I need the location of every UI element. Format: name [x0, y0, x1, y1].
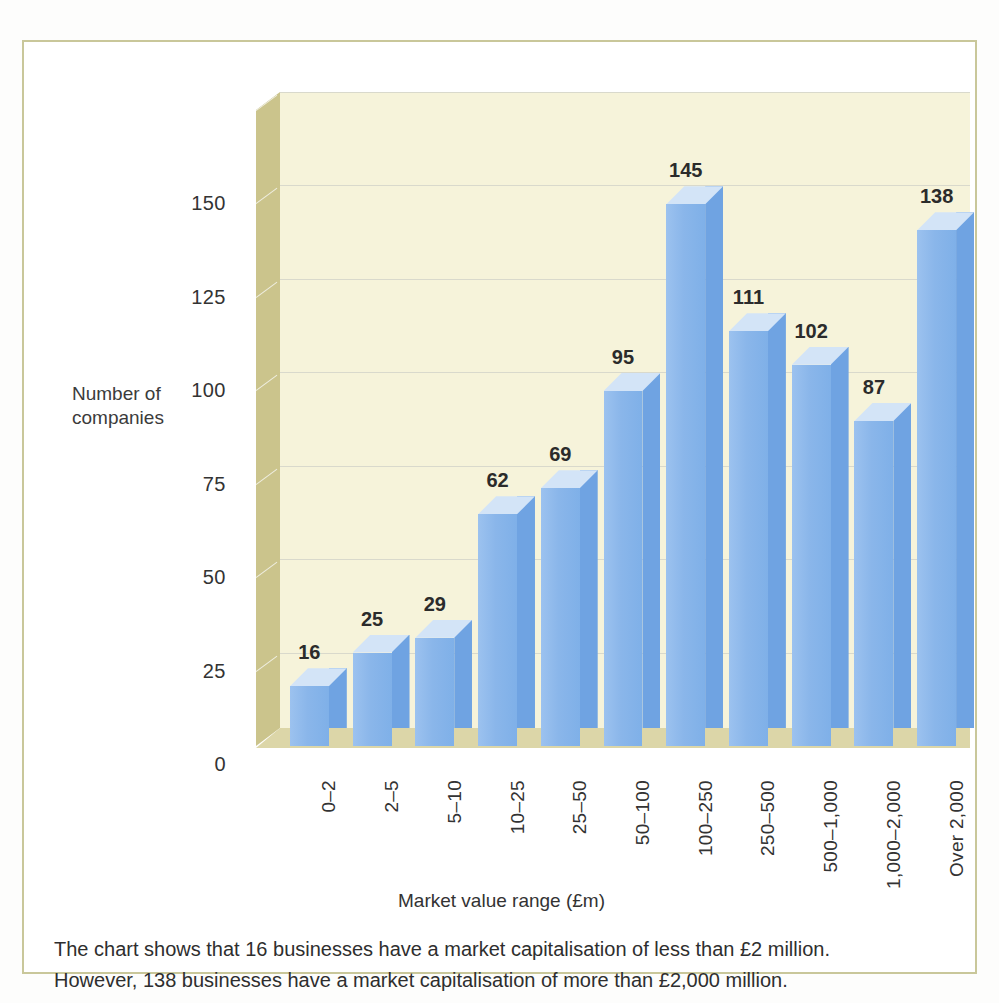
wall-gridline-tick: [256, 188, 278, 204]
x-axis-tick-label: 250–500: [757, 780, 779, 856]
y-axis-tick-label: 125: [191, 285, 226, 308]
bar: 62: [478, 514, 517, 746]
wall-gridline-tick: [256, 562, 278, 578]
bar-side-face: [705, 186, 723, 728]
x-axis-tick-label: Over 2,000: [946, 780, 968, 877]
y-axis-tick-label: 75: [203, 472, 226, 495]
y-axis-tick-label: 150: [191, 192, 226, 215]
bar-value-label: 87: [854, 376, 893, 399]
bar-side-face: [956, 212, 974, 728]
bar-front-face: [290, 686, 329, 746]
bar-front-face: [917, 230, 956, 746]
bar-side-face: [831, 347, 849, 728]
bar-value-label: 16: [290, 641, 329, 664]
bar-value-label: 62: [478, 469, 517, 492]
x-axis-tick-label: 0–2: [318, 780, 340, 813]
y-axis-tick-label: 50: [203, 566, 226, 589]
caption-line-2: However, 138 businesses have a market ca…: [54, 965, 954, 996]
bar-value-label: 29: [415, 593, 454, 616]
bar-side-face: [580, 470, 598, 728]
bar: 69: [541, 488, 580, 746]
y-axis-tick-label: 100: [191, 379, 226, 402]
bar-front-face: [666, 204, 705, 746]
bar-side-face: [893, 403, 911, 728]
bar-side-face: [517, 496, 535, 728]
bar-value-label: 95: [604, 346, 643, 369]
bar-side-face: [642, 373, 660, 728]
x-axis-tick-labels: 0–22–55–1010–2525–5050–100100–250250–500…: [234, 780, 979, 888]
bar-value-label: 138: [917, 185, 956, 208]
bar-front-face: [353, 653, 392, 746]
bar: 102: [792, 365, 831, 746]
x-axis-tick-label: 10–25: [507, 780, 529, 834]
x-axis-tick-label: 2–5: [381, 780, 403, 813]
x-axis-tick-label: 1,000–2,000: [883, 780, 905, 889]
caption-line-1: The chart shows that 16 businesses have …: [54, 934, 954, 965]
bar-side-face: [454, 620, 472, 728]
page: Number of companies 0255075100125150 162…: [0, 0, 999, 1003]
bar-front-face: [415, 638, 454, 746]
bar-side-face: [768, 313, 786, 728]
bar: 138: [917, 230, 956, 746]
bar-front-face: [729, 331, 768, 746]
plot-area: 16252962699514511110287138: [234, 60, 979, 780]
bar: 25: [353, 653, 392, 746]
bar-front-face: [478, 514, 517, 746]
bar-front-face: [604, 391, 643, 746]
y-axis-tick-label: 25: [203, 659, 226, 682]
wall-gridline-tick: [256, 655, 278, 671]
wall-gridline-tick: [256, 469, 278, 485]
bar: 111: [729, 331, 768, 746]
bar-value-label: 102: [792, 320, 831, 343]
bar-value-label: 145: [666, 159, 705, 182]
y-axis-tick-labels: 0255075100125150: [154, 42, 234, 887]
wall-gridline-tick: [256, 282, 278, 298]
bar: 16: [290, 686, 329, 746]
chart-caption: The chart shows that 16 businesses have …: [54, 934, 954, 996]
chart-figure-frame: Number of companies 0255075100125150 162…: [22, 40, 977, 974]
y-axis-tick-label: 0: [214, 753, 226, 776]
wall-gridline-tick: [256, 95, 278, 111]
bar-value-label: 25: [353, 608, 392, 631]
bar: 95: [604, 391, 643, 746]
x-axis-tick-label: 50–100: [632, 780, 654, 845]
bar-value-label: 69: [541, 443, 580, 466]
chart-left-wall: [256, 92, 280, 746]
bar-front-face: [854, 421, 893, 746]
bar-chart: Number of companies 0255075100125150 162…: [24, 42, 979, 887]
x-axis-tick-label: 100–250: [695, 780, 717, 856]
x-axis-tick-label: 25–50: [569, 780, 591, 834]
bar-front-face: [792, 365, 831, 746]
bar: 145: [666, 204, 705, 746]
wall-gridline-tick: [256, 375, 278, 391]
x-axis-tick-label: 5–10: [444, 780, 466, 823]
x-axis-title: Market value range (£m): [24, 890, 979, 912]
bar: 87: [854, 421, 893, 746]
bar-value-label: 111: [729, 286, 768, 309]
bar: 29: [415, 638, 454, 746]
x-axis-tick-label: 500–1,000: [820, 780, 842, 873]
bar-front-face: [541, 488, 580, 746]
bar-series: 16252962699514511110287138: [280, 92, 970, 746]
